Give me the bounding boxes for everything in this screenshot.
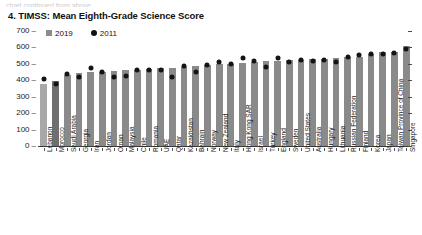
y-axis-tick: 200– (16, 108, 36, 118)
x-axis-tick-mark (102, 148, 103, 151)
x-axis-label: Lithuania (339, 126, 346, 152)
x-axis-label: Australia (315, 127, 322, 152)
y-axis-tick: 400– (16, 75, 36, 85)
x-axis-tick-mark (91, 148, 92, 151)
y-axis-tick-mark: – (30, 42, 36, 52)
dot-2011 (53, 82, 58, 87)
x-axis-label: Chile (140, 137, 147, 152)
x-axis-label: Georgia (82, 129, 89, 152)
x-axis-tick-mark (243, 148, 244, 151)
bar-group[interactable] (379, 31, 386, 146)
dot-2011 (369, 52, 374, 57)
y-axis: 700–600–500–400–300–200–100–0– (0, 24, 36, 154)
dot-2011 (100, 70, 105, 75)
x-axis-tick-mark (324, 148, 325, 151)
dot-2011 (111, 75, 116, 80)
y-axis-tick-label: 300 (16, 92, 29, 101)
x-axis-label: Saudi Arabia (70, 115, 77, 152)
y-axis-tick-mark: – (30, 59, 36, 69)
x-axis-label: Lebanon (46, 127, 53, 152)
x-axis-label: Sweden (292, 129, 299, 153)
right-axis-tick-mark (408, 64, 412, 65)
x-axis-tick-mark (313, 148, 314, 151)
chart-title: 4. TIMSS: Mean Eighth-Grade Science Scor… (8, 10, 204, 21)
x-axis-tick-mark (254, 148, 255, 151)
bar-2019 (379, 52, 386, 146)
x-axis-label: Iran (93, 141, 100, 152)
x-axis-label: Turkey (269, 132, 276, 152)
x-axis-label: UAE (163, 139, 170, 152)
x-axis-tick-mark (126, 148, 127, 151)
y-axis-tick: 600– (16, 42, 36, 52)
x-axis-label: Bahrain (198, 130, 205, 152)
x-axis-label: Hungary (327, 127, 334, 152)
x-axis-tick-mark (219, 148, 220, 151)
y-axis-tick: 300– (16, 92, 36, 102)
right-axis-tick-mark (408, 97, 412, 98)
dot-2011 (193, 69, 198, 74)
dot-2011 (76, 75, 81, 80)
y-axis-tick-mark: – (30, 92, 36, 102)
x-axis-label: Malaysia (128, 126, 135, 152)
x-axis-tick-mark (114, 148, 115, 151)
x-axis-labels: LebanonMoroccoSaudi ArabiaGeorgiaIranJor… (38, 148, 412, 234)
dot-2011 (41, 77, 46, 82)
right-axis-tick-mark (408, 31, 412, 32)
dot-2011 (123, 74, 128, 79)
bar-group[interactable] (169, 31, 176, 146)
x-axis-label: Jordan (105, 132, 112, 152)
bar-2019 (169, 68, 176, 146)
x-axis-tick-mark (336, 148, 337, 151)
x-axis-label: Kazakhstan (187, 118, 194, 152)
right-axis-tick-mark (408, 80, 412, 81)
x-axis-label: Oman (117, 134, 124, 152)
x-axis-label: Romania (152, 126, 159, 152)
bar-group[interactable] (99, 31, 106, 146)
x-axis-label: Morocco (58, 127, 65, 152)
dot-2011 (263, 64, 268, 69)
x-axis-tick-mark (196, 148, 197, 151)
y-axis-tick-label: 700 (16, 26, 29, 35)
bar-group[interactable] (368, 31, 375, 146)
chart-figure: chart continued from above 4. TIMSS: Mea… (0, 0, 422, 235)
x-axis-tick-mark (348, 148, 349, 151)
y-axis-tick: 0– (25, 141, 36, 151)
bar-group[interactable] (263, 31, 270, 146)
right-axis-tick-mark (408, 130, 412, 131)
cropped-text-above: chart continued from above (6, 2, 156, 7)
x-axis-tick-mark (56, 148, 57, 151)
x-axis-tick-mark (207, 148, 208, 151)
right-axis-tick-mark (408, 146, 412, 147)
right-axis-tick-mark (408, 47, 412, 48)
x-axis-label: Hong Kong SAR (245, 104, 252, 152)
x-axis-tick-mark (394, 148, 395, 151)
dot-2011 (65, 72, 70, 77)
x-axis-tick-mark (359, 148, 360, 151)
dot-2011 (135, 68, 140, 73)
bar-group[interactable] (111, 31, 118, 146)
dot-2011 (380, 52, 385, 57)
x-axis-tick-mark (161, 148, 162, 151)
dot-2011 (240, 56, 245, 61)
x-axis-tick-mark (278, 148, 279, 151)
y-axis-tick-label: 200 (16, 108, 29, 117)
x-axis-label: Korea (374, 135, 381, 152)
y-axis-tick-mark: – (30, 75, 36, 85)
y-axis-tick-mark: – (30, 125, 36, 135)
dot-2011 (182, 63, 187, 68)
x-axis-tick-mark (383, 148, 384, 151)
y-axis-tick-label: 100 (16, 125, 29, 134)
bar-group[interactable] (356, 31, 363, 146)
dot-2011 (345, 54, 350, 59)
dot-2011 (287, 60, 292, 65)
x-axis-label: Italy (233, 140, 240, 152)
x-axis-tick-mark (289, 148, 290, 151)
x-axis-tick-mark (149, 148, 150, 151)
y-axis-tick: 500– (16, 59, 36, 69)
dot-2011 (298, 57, 303, 62)
dot-2011 (158, 67, 163, 72)
dot-2011 (392, 51, 397, 56)
x-axis-tick-mark (406, 148, 407, 151)
dot-2011 (310, 58, 315, 63)
bar-group[interactable] (204, 31, 211, 146)
